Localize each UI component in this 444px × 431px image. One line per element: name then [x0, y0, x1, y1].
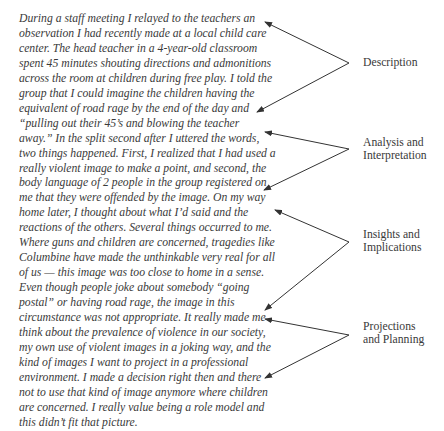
- passage-line: environment. I made a decision right the…: [19, 371, 281, 386]
- passage-line: center. The head teacher in a 4-year-old…: [19, 42, 281, 57]
- passage-line: postal” or having road rage, the image i…: [19, 296, 281, 311]
- label-description: Description: [363, 56, 418, 69]
- passage-line: away.” In the split second after I utter…: [19, 132, 281, 147]
- passage-line: home later, I thought about what I’d sai…: [19, 206, 281, 221]
- passage-line: reactions of the others. Several things …: [19, 221, 281, 236]
- passage-line: Even though people joke about somebody “…: [19, 281, 281, 296]
- passage-line: me that they were offended by the image.…: [19, 191, 281, 206]
- passage-line: this didn’t fit that picture.: [19, 416, 281, 431]
- passage-line: really violent image to make a point, an…: [19, 162, 281, 177]
- label-insights-line: Insights and: [363, 228, 421, 241]
- passage-line: “pulling out their 45’s and blowing the …: [19, 117, 281, 132]
- label-projections-line: and Planning: [363, 333, 424, 346]
- passage-line: observation I had recently made at a loc…: [19, 27, 281, 42]
- passage-line: During a staff meeting I relayed to the …: [19, 12, 281, 27]
- passage-line: Columbine have made the unthinkable very…: [19, 251, 281, 266]
- passage-line: group that I could imagine the children …: [19, 87, 281, 102]
- passage-line: body language of 2 people in the group r…: [19, 176, 281, 191]
- insights-arrow-upper: [275, 210, 349, 242]
- label-analysis-interpretation: Analysis and Interpretation: [363, 136, 427, 162]
- label-description-line: Description: [363, 56, 418, 69]
- passage-line: not to use that kind of image anymore wh…: [19, 386, 281, 401]
- passage-line: kind of images I want to project in a pr…: [19, 356, 281, 371]
- reflection-passage: During a staff meeting I relayed to the …: [19, 12, 281, 431]
- passage-line: across the room at children during free …: [19, 72, 281, 87]
- label-insights-line: Implications: [363, 241, 421, 254]
- passage-line: circumstance was not appropriate. It rea…: [19, 311, 281, 326]
- passage-line: spent 45 minutes shouting directions and…: [19, 57, 281, 72]
- passage-line: think about the prevalence of violence i…: [19, 326, 281, 341]
- passage-line: are concerned. I really value being a ro…: [19, 401, 281, 416]
- passage-line: of us — this image was too close to home…: [19, 266, 281, 281]
- label-analysis-line: Interpretation: [363, 149, 427, 162]
- label-projections-planning: Projections and Planning: [363, 320, 424, 346]
- passage-line: two things happened. First, I realized t…: [19, 147, 281, 162]
- label-projections-line: Projections: [363, 320, 424, 333]
- passage-line: equivalent of road rage by the end of th…: [19, 102, 281, 117]
- passage-line: Where guns and children are concerned, t…: [19, 236, 281, 251]
- label-insights-implications: Insights and Implications: [363, 228, 421, 254]
- label-analysis-line: Analysis and: [363, 136, 427, 149]
- passage-line: my own use of violent images in a joking…: [19, 341, 281, 356]
